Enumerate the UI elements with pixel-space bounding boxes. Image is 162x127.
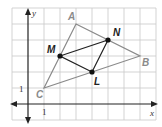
point-n	[105, 37, 110, 42]
grid	[12, 8, 156, 120]
point-m	[57, 53, 62, 58]
midpoint-label-n: N	[113, 27, 121, 38]
y-axis-arrow-down-icon	[25, 117, 31, 124]
vertex-label-c: C	[36, 89, 44, 100]
midpoint-label-m: M	[47, 44, 56, 55]
x-axis-arrow-left-icon	[10, 101, 17, 107]
y-tick-label: 1	[19, 84, 24, 94]
vertex-label-b: B	[142, 57, 149, 68]
x-axis-arrow-right-icon	[151, 101, 158, 107]
coordinate-plane: y x 1 1 A B C M N L	[0, 0, 162, 127]
midpoint-label-l: L	[94, 76, 100, 87]
y-axis-arrow-up-icon	[25, 8, 31, 15]
point-l	[89, 69, 94, 74]
x-axis-label: x	[149, 108, 154, 118]
axes	[10, 8, 158, 124]
vertex-label-a: A	[67, 11, 75, 22]
y-axis-label: y	[31, 8, 36, 18]
x-tick-label: 1	[42, 107, 47, 117]
